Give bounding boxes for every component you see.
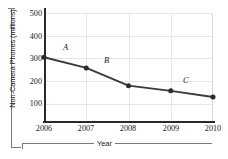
data-point-2009 — [168, 88, 173, 93]
x-tick-label-2010: 2010 — [193, 124, 228, 133]
data-point-2008 — [126, 83, 131, 88]
data-point-2006 — [42, 55, 47, 60]
chart-figure: Non-Camera Phones (millions) 500 400 300… — [0, 0, 228, 159]
x-tick-label-2008: 2008 — [108, 124, 148, 133]
x-tick-label-2007: 2007 — [66, 124, 106, 133]
y-tick-label-200: 200 — [14, 77, 42, 86]
data-point-2010 — [211, 94, 216, 99]
y-tick-label-400: 400 — [14, 32, 42, 41]
annotation-label-b: B — [104, 56, 109, 65]
y-tick-label-100: 100 — [14, 99, 42, 108]
annotation-label-a: A — [63, 43, 68, 52]
plot-area: A B C — [44, 13, 213, 122]
x-axis-bracket-line — [22, 143, 212, 144]
x-tick-label-2006: 2006 — [24, 124, 64, 133]
data-series-line — [44, 13, 213, 122]
y-tick-label-300: 300 — [14, 54, 42, 63]
x-tick-label-2009: 2009 — [151, 124, 191, 133]
y-tick-label-500: 500 — [14, 9, 42, 18]
data-point-2007 — [84, 65, 89, 70]
x-axis-title: Year — [94, 139, 115, 148]
y-axis-bracket-foot — [11, 147, 21, 148]
annotation-label-c: C — [183, 76, 189, 85]
